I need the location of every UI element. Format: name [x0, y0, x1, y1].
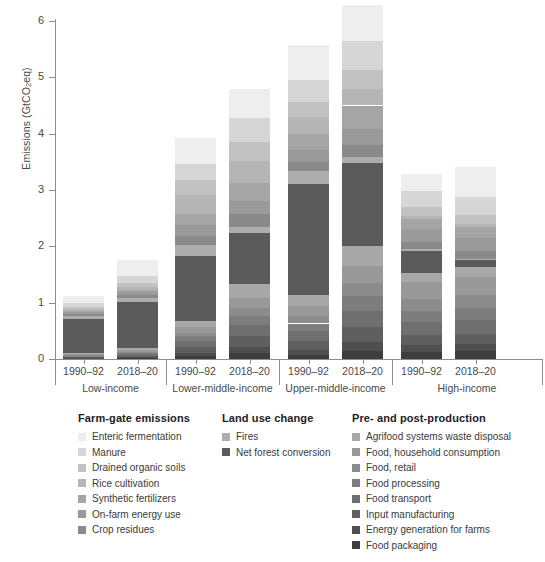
legend-item[interactable]: On-farm energy use	[78, 508, 190, 521]
bar-low-income-1990-92[interactable]	[63, 0, 104, 359]
bar-segment-on-farm-energy-use[interactable]	[117, 292, 158, 295]
bar-segment-fires[interactable]	[229, 227, 270, 234]
bar-segment-energy-generation-for-farms[interactable]	[401, 345, 442, 352]
bar-segment-enteric-fermentation[interactable]	[401, 174, 442, 190]
bar-segment-crop-residues[interactable]	[63, 314, 104, 316]
bar-segment-enteric-fermentation[interactable]	[455, 167, 496, 197]
bar-segment-synthetic-fertilizers[interactable]	[175, 214, 216, 226]
bar-segment-food-transport[interactable]	[175, 341, 216, 347]
legend-item[interactable]: Input manufacturing	[352, 508, 511, 521]
bar-segment-food-processing[interactable]	[117, 353, 158, 354]
bar-segment-crop-residues[interactable]	[229, 214, 270, 226]
legend-item[interactable]: Food transport	[352, 492, 511, 505]
bar-segment-food-transport[interactable]	[342, 311, 383, 328]
bar-segment-rice-cultivation[interactable]	[229, 161, 270, 182]
bar-segment-rice-cultivation[interactable]	[401, 216, 442, 219]
bar-segment-crop-residues[interactable]	[117, 295, 158, 298]
bar-segment-net-forest-conversion[interactable]	[288, 184, 329, 295]
legend-item[interactable]: Drained organic soils	[78, 461, 190, 474]
bar-segment-rice-cultivation[interactable]	[63, 309, 104, 311]
bar-lower-middle-income-1990-92[interactable]	[175, 0, 216, 359]
bar-segment-food-retail[interactable]	[342, 283, 383, 297]
legend-item[interactable]: Manure	[78, 446, 190, 459]
bar-segment-food-processing[interactable]	[229, 316, 270, 325]
bar-segment-crop-residues[interactable]	[175, 236, 216, 245]
bar-segment-manure[interactable]	[342, 41, 383, 70]
bar-segment-energy-generation-for-farms[interactable]	[455, 344, 496, 351]
bar-segment-fires[interactable]	[455, 259, 496, 261]
bar-segment-food-processing[interactable]	[63, 356, 104, 357]
bar-segment-energy-generation-for-farms[interactable]	[175, 353, 216, 356]
bar-lower-middle-income-2018-20[interactable]	[229, 0, 270, 359]
bar-segment-food-retail[interactable]	[117, 352, 158, 353]
bar-segment-food-transport[interactable]	[455, 320, 496, 334]
bar-segment-agrifood-systems-waste-disposal[interactable]	[288, 295, 329, 306]
legend-item[interactable]: Fires	[222, 430, 331, 443]
bar-segment-agrifood-systems-waste-disposal[interactable]	[229, 284, 270, 298]
legend-item[interactable]: Net forest conversion	[222, 446, 331, 459]
bar-segment-food-household-consumption[interactable]	[117, 350, 158, 352]
bar-segment-on-farm-energy-use[interactable]	[455, 238, 496, 251]
bar-segment-food-household-consumption[interactable]	[342, 266, 383, 283]
bar-segment-synthetic-fertilizers[interactable]	[229, 183, 270, 201]
bar-segment-synthetic-fertilizers[interactable]	[455, 227, 496, 238]
bar-segment-food-household-consumption[interactable]	[63, 354, 104, 355]
bar-upper-middle-income-2018-20[interactable]	[342, 0, 383, 359]
bar-segment-input-manufacturing[interactable]	[175, 347, 216, 353]
bar-segment-enteric-fermentation[interactable]	[342, 5, 383, 41]
bar-segment-drained-organic-soils[interactable]	[455, 215, 496, 225]
bar-segment-energy-generation-for-farms[interactable]	[117, 357, 158, 358]
bar-segment-food-household-consumption[interactable]	[229, 298, 270, 308]
bar-segment-rice-cultivation[interactable]	[288, 117, 329, 134]
bar-segment-manure[interactable]	[63, 303, 104, 308]
bar-segment-food-household-consumption[interactable]	[455, 277, 496, 295]
bar-segment-drained-organic-soils[interactable]	[342, 70, 383, 89]
bar-segment-food-packaging[interactable]	[455, 351, 496, 359]
bar-segment-food-processing[interactable]	[175, 336, 216, 341]
bar-segment-food-processing[interactable]	[455, 308, 496, 320]
bar-segment-fires[interactable]	[288, 171, 329, 183]
bar-segment-agrifood-systems-waste-disposal[interactable]	[175, 321, 216, 328]
bar-segment-agrifood-systems-waste-disposal[interactable]	[117, 348, 158, 350]
legend-item[interactable]: Energy generation for farms	[352, 523, 511, 536]
bar-segment-food-transport[interactable]	[117, 354, 158, 356]
bar-segment-on-farm-energy-use[interactable]	[288, 150, 329, 162]
bar-segment-manure[interactable]	[229, 118, 270, 142]
bar-segment-input-manufacturing[interactable]	[455, 334, 496, 344]
bar-segment-net-forest-conversion[interactable]	[175, 256, 216, 321]
bar-segment-synthetic-fertilizers[interactable]	[401, 219, 442, 230]
legend-item[interactable]: Crop residues	[78, 523, 190, 536]
bar-segment-food-household-consumption[interactable]	[175, 327, 216, 332]
bar-segment-fires[interactable]	[401, 249, 442, 252]
bar-segment-agrifood-systems-waste-disposal[interactable]	[455, 267, 496, 277]
bar-segment-energy-generation-for-farms[interactable]	[229, 347, 270, 354]
bar-segment-drained-organic-soils[interactable]	[63, 307, 104, 309]
bar-low-income-2018-20[interactable]	[117, 0, 158, 359]
bar-segment-food-transport[interactable]	[229, 325, 270, 337]
bar-segment-rice-cultivation[interactable]	[342, 89, 383, 106]
legend-item[interactable]: Agrifood systems waste disposal	[352, 430, 511, 443]
legend-item[interactable]: Food processing	[352, 477, 511, 490]
bar-segment-food-retail[interactable]	[229, 308, 270, 316]
bar-segment-crop-residues[interactable]	[455, 251, 496, 258]
bar-segment-drained-organic-soils[interactable]	[229, 142, 270, 161]
bar-segment-net-forest-conversion[interactable]	[229, 233, 270, 284]
bar-segment-manure[interactable]	[288, 80, 329, 103]
bar-segment-input-manufacturing[interactable]	[117, 356, 158, 357]
bar-segment-rice-cultivation[interactable]	[175, 195, 216, 214]
bar-segment-energy-generation-for-farms[interactable]	[288, 350, 329, 355]
legend-item[interactable]: Rice cultivation	[78, 477, 190, 490]
bar-high-income-2018-20[interactable]	[455, 0, 496, 359]
bar-segment-net-forest-conversion[interactable]	[455, 260, 496, 267]
bar-segment-manure[interactable]	[175, 164, 216, 180]
bar-segment-synthetic-fertilizers[interactable]	[342, 106, 383, 130]
bar-segment-food-retail[interactable]	[455, 295, 496, 308]
bar-segment-enteric-fermentation[interactable]	[117, 260, 158, 275]
bar-segment-synthetic-fertilizers[interactable]	[288, 134, 329, 150]
bar-segment-food-household-consumption[interactable]	[401, 282, 442, 299]
legend-item[interactable]: Food, retail	[352, 461, 511, 474]
bar-high-income-1990-92[interactable]	[401, 0, 442, 359]
bar-segment-energy-generation-for-farms[interactable]	[342, 342, 383, 351]
bar-segment-on-farm-energy-use[interactable]	[401, 229, 442, 241]
bar-segment-enteric-fermentation[interactable]	[175, 138, 216, 163]
